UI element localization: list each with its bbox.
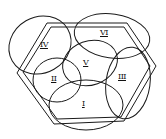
outer-hexagon [17,23,156,124]
ellipse-iii [101,44,155,121]
region-label-iv: IV [40,41,48,49]
ellipse-vi [71,9,152,63]
hexagon-ellipse-diagram [0,0,166,139]
region-label-v: V [83,59,88,67]
ellipse-ii [33,58,81,102]
diagram-canvas: IV VI V II III I [0,0,166,139]
region-label-ii: II [51,75,56,83]
region-label-vi: VI [100,29,108,37]
region-label-iii: III [118,73,126,81]
region-label-i: I [82,100,85,108]
